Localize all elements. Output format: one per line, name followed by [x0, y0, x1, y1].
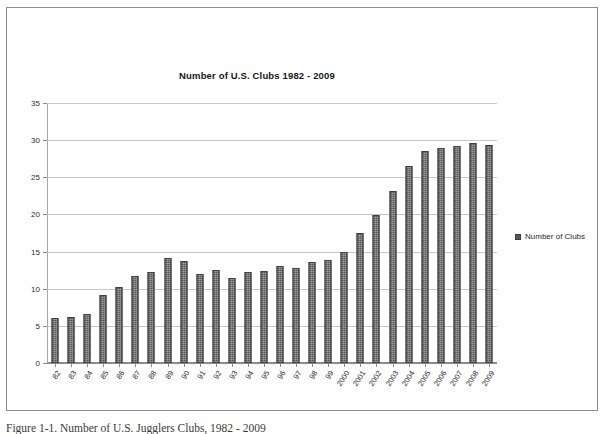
- x-axis-tick-label: 98: [308, 369, 320, 381]
- bar-slot: 85: [95, 103, 111, 363]
- x-axis-tick-label: 96: [275, 369, 287, 381]
- bar[interactable]: [196, 274, 203, 363]
- x-axis-tick-label: 86: [115, 369, 127, 381]
- chart-plot-area: 05101520253035 8283848586878889909192939…: [47, 103, 497, 363]
- chart-legend: Number of Clubs: [515, 232, 585, 241]
- bar-slot: 96: [272, 103, 288, 363]
- bar[interactable]: [164, 258, 171, 363]
- bar-slot: 90: [176, 103, 192, 363]
- bar[interactable]: [52, 318, 59, 363]
- y-axis-tick: [43, 363, 47, 364]
- bar[interactable]: [180, 261, 187, 363]
- bar[interactable]: [212, 270, 219, 363]
- x-axis-tick: [376, 363, 377, 367]
- bar[interactable]: [132, 276, 139, 363]
- y-axis-tick-label: 5: [36, 321, 40, 330]
- bar[interactable]: [325, 260, 332, 363]
- bar-slot: 83: [63, 103, 79, 363]
- x-axis-tick: [489, 363, 490, 367]
- bar[interactable]: [421, 151, 428, 363]
- x-axis-tick-label: 99: [324, 369, 336, 381]
- x-axis-tick: [55, 363, 56, 367]
- bar-slot: 97: [288, 103, 304, 363]
- x-axis-tick-label: 82: [50, 369, 62, 381]
- x-axis-tick-label: 85: [99, 369, 111, 381]
- x-axis-tick: [151, 363, 152, 367]
- bar-slot: 2005: [417, 103, 433, 363]
- y-axis-tick-label: 35: [31, 99, 40, 108]
- x-axis-tick-label: 88: [147, 369, 159, 381]
- x-axis-tick: [248, 363, 249, 367]
- x-axis-tick-label: 2007: [448, 369, 465, 388]
- x-axis-tick-label: 2000: [335, 369, 352, 388]
- x-axis-tick: [168, 363, 169, 367]
- x-axis-tick: [296, 363, 297, 367]
- bar-slot: 95: [256, 103, 272, 363]
- bar-slot: 88: [143, 103, 159, 363]
- chart-title: Number of U.S. Clubs 1982 - 2009: [7, 70, 507, 81]
- bar[interactable]: [293, 268, 300, 363]
- x-axis-tick: [184, 363, 185, 367]
- gridline: [47, 363, 497, 364]
- bar-slot: 2002: [368, 103, 384, 363]
- bar[interactable]: [116, 287, 123, 363]
- y-axis-tick-label: 15: [31, 247, 40, 256]
- bar[interactable]: [84, 314, 91, 363]
- bar-slot: 2007: [449, 103, 465, 363]
- bar[interactable]: [437, 148, 444, 363]
- x-axis-tick-label: 84: [83, 369, 95, 381]
- bar-slot: 2009: [481, 103, 497, 363]
- x-axis-tick-label: 97: [292, 369, 304, 381]
- x-axis-tick: [71, 363, 72, 367]
- x-axis-tick: [232, 363, 233, 367]
- x-axis-tick: [264, 363, 265, 367]
- bar-slot: 94: [240, 103, 256, 363]
- bar-slot: 84: [79, 103, 95, 363]
- x-axis-tick-label: 94: [243, 369, 255, 381]
- x-axis-tick-label: 2006: [432, 369, 449, 388]
- x-axis-tick: [119, 363, 120, 367]
- y-axis-tick-label: 25: [31, 173, 40, 182]
- figure-caption: Figure 1-1. Number of U.S. Jugglers Club…: [6, 422, 266, 434]
- x-axis-tick-label: 89: [163, 369, 175, 381]
- x-axis-tick-label: 93: [227, 369, 239, 381]
- x-axis-tick: [103, 363, 104, 367]
- x-axis-tick-label: 2001: [351, 369, 368, 388]
- x-axis-tick-label: 2009: [480, 369, 497, 388]
- bar[interactable]: [100, 295, 107, 363]
- bar[interactable]: [405, 166, 412, 363]
- bar-slot: 98: [304, 103, 320, 363]
- bar[interactable]: [485, 145, 492, 363]
- bar[interactable]: [68, 317, 75, 363]
- bar[interactable]: [469, 143, 476, 363]
- x-axis-tick: [200, 363, 201, 367]
- bar[interactable]: [389, 191, 396, 363]
- x-axis-tick: [409, 363, 410, 367]
- legend-swatch-icon: [515, 234, 521, 240]
- bar[interactable]: [453, 146, 460, 363]
- bar-slot: 2000: [336, 103, 352, 363]
- y-axis-tick-label: 0: [36, 359, 40, 368]
- bar[interactable]: [228, 278, 235, 363]
- x-axis-tick-label: 91: [195, 369, 207, 381]
- bar[interactable]: [309, 262, 316, 363]
- bar-slot: 99: [320, 103, 336, 363]
- x-axis-tick-label: 90: [179, 369, 191, 381]
- x-axis-tick-label: 92: [211, 369, 223, 381]
- x-axis-tick: [328, 363, 329, 367]
- x-axis-tick: [344, 363, 345, 367]
- bar-slot: 89: [160, 103, 176, 363]
- bar[interactable]: [357, 233, 364, 363]
- bar[interactable]: [260, 271, 267, 363]
- y-axis-tick-label: 30: [31, 136, 40, 145]
- bar[interactable]: [373, 215, 380, 363]
- x-axis-tick-label: 2008: [464, 369, 481, 388]
- bar[interactable]: [277, 266, 284, 363]
- bar[interactable]: [341, 252, 348, 363]
- bar-slot: 91: [192, 103, 208, 363]
- bar-slot: 2004: [401, 103, 417, 363]
- bar[interactable]: [244, 272, 251, 363]
- x-axis-tick: [87, 363, 88, 367]
- bar[interactable]: [148, 272, 155, 363]
- x-axis-tick: [473, 363, 474, 367]
